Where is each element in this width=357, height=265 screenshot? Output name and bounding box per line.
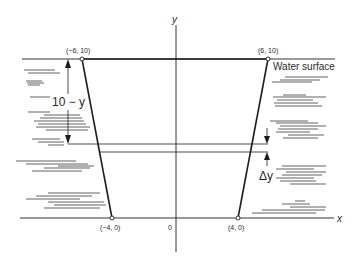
dam-right-side [238, 59, 268, 218]
water-hatching-left [16, 70, 106, 208]
water-surface-label: Water surface [273, 61, 335, 72]
vertex-top-right [266, 57, 270, 61]
y-axis-label: y [171, 14, 178, 25]
depth-label: 10 − y [52, 95, 85, 109]
vertex-bottom-left [110, 216, 114, 220]
origin-label: 0 [168, 224, 172, 231]
vertex-bottom-right [236, 216, 240, 220]
vertex-label-top-left: (−6, 10) [66, 47, 90, 55]
depth-arrow-down-head [65, 135, 71, 144]
x-axis-label: x [336, 213, 343, 224]
depth-arrow-up-head [65, 59, 71, 68]
dy-arrow-bottom-head [264, 152, 270, 160]
strip-thickness-label: Δy [259, 169, 273, 183]
water-hatching-right [252, 77, 328, 213]
dam-left-side [82, 59, 112, 218]
dy-arrow-top-head [264, 136, 270, 144]
diagram-canvas: y x 0 (−6, 10) (6, 10) (−4, 0) (4, 0) Wa… [0, 0, 357, 265]
vertex-label-top-right: (6, 10) [258, 47, 278, 55]
vertex-label-bottom-right: (4, 0) [228, 224, 244, 232]
vertex-top-left [80, 57, 84, 61]
vertex-label-bottom-left: (−4, 0) [100, 224, 120, 232]
